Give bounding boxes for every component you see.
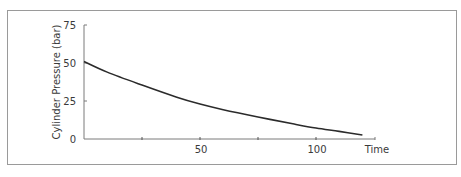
y-tick-label: 0 bbox=[70, 134, 76, 145]
y-tick-label: 25 bbox=[63, 96, 76, 107]
y-axis-label: Cylinder Pressure (bar) bbox=[51, 24, 62, 139]
chart: 0255075 50100 Cylinder Pressure (bar) Ti… bbox=[0, 0, 461, 177]
x-axis-label: Time bbox=[364, 144, 389, 155]
x-tick-label: 50 bbox=[195, 144, 208, 155]
y-tick-label: 50 bbox=[63, 58, 76, 69]
y-tick-label: 75 bbox=[63, 20, 76, 31]
x-tick-label: 100 bbox=[307, 144, 326, 155]
